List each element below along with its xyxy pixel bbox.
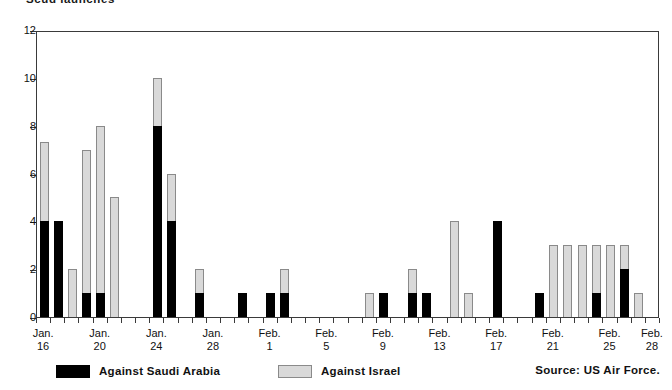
x-tick-label: Jan.28	[190, 327, 236, 353]
x-tick-mark	[517, 318, 518, 323]
legend-label-saudi-arabia: Against Saudi Arabia	[99, 365, 220, 377]
bar-segment-saudi-arabia	[167, 221, 176, 317]
bar-segment-israel	[549, 245, 558, 317]
bar-stack	[365, 293, 374, 317]
bar-stack	[592, 245, 601, 317]
x-tick-label-day: 28	[629, 340, 672, 353]
bar-stack	[464, 293, 473, 317]
bar-stack	[563, 245, 572, 317]
x-tick-mark	[461, 318, 462, 323]
x-tick-label-day: 20	[77, 340, 123, 353]
x-tick-label: Feb.13	[417, 327, 463, 353]
x-tick-mark	[404, 318, 405, 323]
bar-stack	[493, 221, 502, 317]
x-tick-mark	[305, 318, 306, 323]
bar-segment-israel	[365, 293, 374, 317]
bar-segment-saudi-arabia	[96, 293, 105, 317]
bar-stack	[578, 245, 587, 317]
chart-title: Scud launches	[26, 0, 115, 5]
bar-stack	[549, 245, 558, 317]
x-tick-mark	[163, 318, 164, 323]
x-tick-mark	[248, 318, 249, 323]
x-tick-mark	[602, 318, 603, 323]
x-tick-mark	[234, 318, 235, 323]
x-tick-mark	[50, 318, 51, 323]
x-tick-mark	[220, 318, 221, 323]
bar-segment-israel	[280, 269, 289, 293]
x-tick-mark	[645, 318, 646, 323]
x-tick-mark	[135, 318, 136, 323]
bar-stack	[266, 293, 275, 317]
legend-label-israel: Against Israel	[321, 365, 401, 377]
x-tick-mark	[64, 318, 65, 323]
x-tick-mark	[560, 318, 561, 323]
bar-segment-saudi-arabia	[280, 293, 289, 317]
bar-segment-israel	[82, 150, 91, 294]
x-tick-label-day: 1	[247, 340, 293, 353]
x-tick-mark	[432, 318, 433, 323]
x-tick-label-month: Jan.	[33, 327, 54, 339]
bar-stack	[40, 142, 49, 317]
x-tick-mark	[659, 318, 660, 323]
y-tick-label: 6	[8, 169, 36, 180]
bar-stack	[634, 293, 643, 317]
x-tick-label-month: Jan.	[89, 327, 110, 339]
bar-segment-israel	[634, 293, 643, 317]
x-tick-label: Jan.16	[20, 327, 66, 353]
x-tick-label-month: Feb.	[315, 327, 337, 339]
y-tick-label: 12	[8, 25, 36, 36]
x-tick-label-day: 13	[417, 340, 463, 353]
bar-segment-israel	[620, 245, 629, 269]
x-tick-mark	[418, 318, 419, 323]
bar-stack	[606, 245, 615, 317]
x-tick-mark	[574, 318, 575, 323]
y-tick-label: 4	[8, 216, 36, 227]
bar-segment-saudi-arabia	[422, 293, 431, 317]
bar-stack	[153, 78, 162, 317]
y-tick-label: 8	[8, 121, 36, 132]
x-tick-mark	[121, 318, 122, 323]
x-tick-mark	[447, 318, 448, 323]
bar-segment-israel	[40, 142, 49, 221]
bar-segment-israel	[96, 126, 105, 293]
x-tick-mark	[475, 318, 476, 323]
bar-segment-israel	[68, 269, 77, 317]
bar-segment-israel	[606, 245, 615, 317]
bar-stack	[620, 245, 629, 317]
x-tick-mark	[107, 318, 108, 323]
bar-stack	[238, 293, 247, 317]
bar-stack	[195, 269, 204, 317]
x-tick-mark	[149, 318, 150, 323]
x-tick-mark	[489, 318, 490, 323]
x-tick-label: Feb.17	[473, 327, 519, 353]
x-tick-label-day: 9	[360, 340, 406, 353]
bar-segment-israel	[578, 245, 587, 317]
scud-launches-chart: Scud launches 024681012 Jan.16Jan.20Jan.…	[0, 0, 672, 390]
x-tick-mark	[333, 318, 334, 323]
legend-item-saudi-arabia: Against Saudi Arabia	[56, 363, 220, 379]
x-tick-label-day: 5	[303, 340, 349, 353]
x-tick-mark	[348, 318, 349, 323]
x-tick-label-month: Feb.	[429, 327, 451, 339]
x-tick-label: Feb.5	[303, 327, 349, 353]
x-tick-label-day: 25	[586, 340, 632, 353]
bar-segment-saudi-arabia	[82, 293, 91, 317]
x-tick-label-month: Feb.	[485, 327, 507, 339]
bar-segment-israel	[153, 78, 162, 126]
x-tick-label-month: Feb.	[542, 327, 564, 339]
x-tick-mark	[532, 318, 533, 323]
x-tick-mark	[178, 318, 179, 323]
bar-stack	[450, 221, 459, 317]
x-tick-label-day: 16	[20, 340, 66, 353]
x-tick-label: Jan.20	[77, 327, 123, 353]
bar-segment-saudi-arabia	[153, 126, 162, 317]
bar-segment-saudi-arabia	[535, 293, 544, 317]
x-tick-mark	[93, 318, 94, 323]
bar-stack	[68, 269, 77, 317]
bar-segment-saudi-arabia	[40, 221, 49, 317]
x-tick-mark	[631, 318, 632, 323]
bar-segment-saudi-arabia	[266, 293, 275, 317]
legend-swatch-saudi-arabia	[56, 365, 90, 378]
bar-segment-saudi-arabia	[195, 293, 204, 317]
x-tick-mark	[192, 318, 193, 323]
